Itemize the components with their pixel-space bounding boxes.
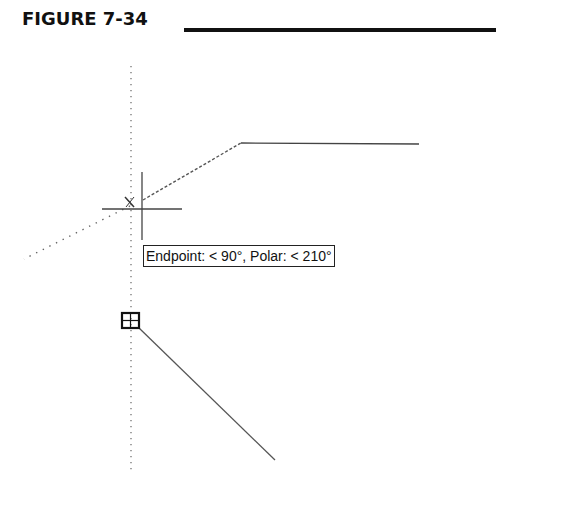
polar-tracking-line xyxy=(24,206,130,259)
tracking-tooltip: Endpoint: < 90°, Polar: < 210° xyxy=(143,245,335,267)
diagonal-line-segment xyxy=(138,327,275,460)
horizontal-line-segment xyxy=(241,143,419,144)
crosshair-cursor-icon xyxy=(102,172,182,240)
endpoint-snap-marker-icon xyxy=(122,313,139,328)
rubberband-dashed-line xyxy=(143,143,241,200)
